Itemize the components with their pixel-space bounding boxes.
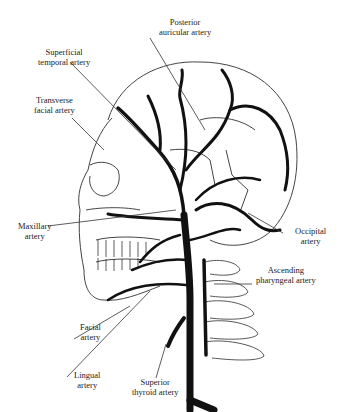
label-occipital-artery: Occipital artery [295,226,326,246]
label-superficial-temporal-artery: Superficial temporal artery [38,47,90,67]
label-line: pharyngeal artery [256,275,316,285]
label-line: Posterior [159,17,211,27]
artery-diagram: Posterior auricular artery Superficial t… [0,0,343,412]
label-ascending-pharyngeal-artery: Ascending pharyngeal artery [256,265,316,285]
label-maxillary-artery: Maxillary artery [18,221,52,241]
arteries [108,70,288,410]
label-line: auricular artery [159,27,211,37]
label-transverse-facial-artery: Transverse facial artery [34,95,75,115]
label-line: artery [18,231,52,241]
label-line: thyroid artery [132,387,179,397]
label-line: artery [295,236,326,246]
label-line: artery [74,380,100,390]
label-line: Ascending [256,265,316,275]
label-superior-thyroid-artery: Superior thyroid artery [132,377,179,397]
label-line: Occipital [295,226,326,236]
label-line: Facial [80,322,101,332]
label-line: Superficial [38,47,90,57]
label-posterior-auricular-artery: Posterior auricular artery [159,17,211,37]
label-line: Maxillary [18,221,52,231]
label-lingual-artery: Lingual artery [74,370,100,390]
label-facial-artery: Facial artery [80,322,101,342]
label-line: Lingual [74,370,100,380]
label-line: Superior [132,377,179,387]
label-line: facial artery [34,105,75,115]
label-line: Transverse [34,95,75,105]
label-line: artery [80,332,101,342]
label-line: temporal artery [38,57,90,67]
